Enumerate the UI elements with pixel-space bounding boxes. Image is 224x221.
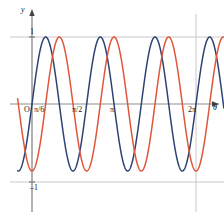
x-tick-label-pi: π [110, 106, 114, 114]
y-tick-label-minus-one: –1 [30, 184, 38, 192]
x-tick-label-pi-over-2: π/2 [72, 106, 82, 114]
x-axis-label: θ [213, 104, 217, 112]
x-tick-label-pi-over-6: π/6 [34, 106, 44, 114]
y-axis-label: y [21, 6, 25, 14]
origin-label: O [24, 106, 30, 114]
y-tick-label-one: 1 [30, 28, 34, 36]
x-tick-label-two-pi: 2π [188, 106, 196, 114]
sine-graph-figure: O π/6 π/2 π 2π 1 –1 y θ [0, 0, 224, 221]
y-axis-arrowhead [29, 9, 34, 16]
